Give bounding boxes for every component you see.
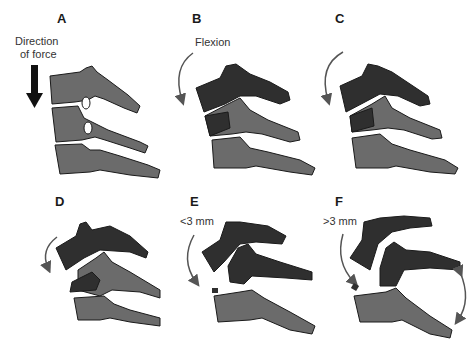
panel-label-f: F: [335, 194, 343, 209]
vertebra-lower: [214, 290, 315, 334]
flexion-arrow-icon: [187, 235, 196, 282]
displacement-label: <3 mm: [180, 215, 214, 227]
vertebra-lower: [212, 137, 315, 175]
flexion-label: Flexion: [195, 36, 230, 48]
distraction-arrow-icon: [458, 272, 466, 320]
panel-c: C: [325, 11, 458, 174]
spine-flexion-injury-diagram: A Direction of force B Flexion C: [0, 0, 476, 351]
vertebra-middle: [228, 244, 312, 284]
flexion-arrow-icon: [179, 53, 193, 100]
flexion-arrow-icon: [325, 52, 343, 100]
bone-fragment: [212, 288, 218, 293]
panel-label-b: B: [192, 11, 201, 26]
vertebra-middle-fractured: [70, 272, 100, 292]
panel-label-d: D: [55, 194, 64, 209]
vertebra-lower: [74, 296, 160, 326]
bone-fragment: [351, 283, 359, 291]
displacement-label: >3 mm: [323, 215, 357, 227]
flexion-arrow-icon: [45, 237, 57, 268]
panel-label-a: A: [57, 11, 67, 26]
facet-joint: [82, 97, 90, 109]
vertebra-lower: [354, 288, 452, 338]
panel-e: E <3 mm: [180, 194, 315, 334]
vertebra-lower: [352, 134, 458, 174]
panel-d: D: [45, 194, 160, 326]
force-arrow-icon: [26, 65, 43, 108]
panel-b: B Flexion: [179, 11, 315, 175]
direction-label-line2: of force: [20, 48, 57, 60]
facet-joint: [84, 122, 92, 134]
panel-a: A Direction of force: [15, 11, 160, 178]
panel-label-e: E: [190, 194, 199, 209]
vertebra-upper: [50, 66, 140, 113]
panel-f: F >3 mm: [323, 194, 466, 338]
vertebra-middle: [380, 242, 460, 286]
panel-label-c: C: [335, 11, 345, 26]
direction-label-line1: Direction: [15, 35, 58, 47]
